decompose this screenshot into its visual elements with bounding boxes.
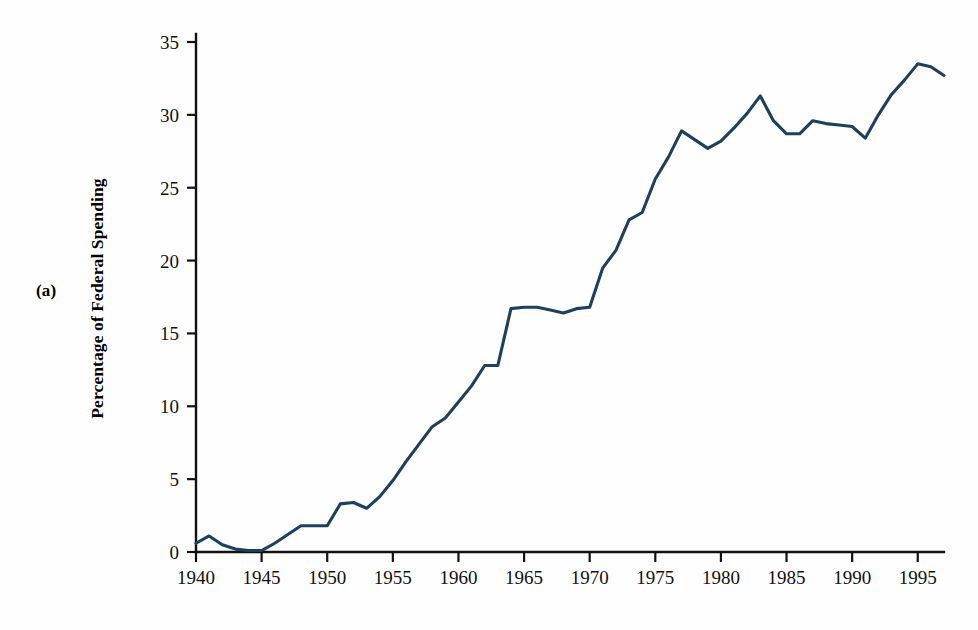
y-tick-label: 10 (160, 396, 179, 417)
y-axis-ticks: 05101520253035 (160, 32, 196, 563)
x-tick-label: 1990 (833, 567, 871, 588)
x-tick-label: 1975 (636, 567, 674, 588)
figure-panel-a: (a) Percentage of Federal Spending 05101… (0, 0, 978, 630)
x-tick-label: 1945 (243, 567, 281, 588)
y-tick-label: 25 (160, 178, 179, 199)
y-tick-label: 30 (160, 105, 179, 126)
y-tick-label: 35 (160, 32, 179, 53)
x-tick-label: 1955 (374, 567, 412, 588)
x-tick-label: 1950 (308, 567, 346, 588)
x-tick-label: 1995 (899, 567, 937, 588)
x-tick-label: 1965 (505, 567, 543, 588)
y-tick-label: 5 (170, 469, 180, 490)
series-line-federal-spending (196, 64, 944, 551)
y-tick-label: 20 (160, 251, 179, 272)
line-chart-plot: 05101520253035 1940194519501955196019651… (0, 0, 978, 630)
x-axis-ticks: 1940194519501955196019651970197519801985… (177, 552, 937, 588)
x-tick-label: 1980 (702, 567, 740, 588)
x-tick-label: 1940 (177, 567, 215, 588)
y-tick-label: 15 (160, 323, 179, 344)
x-tick-label: 1960 (439, 567, 477, 588)
y-tick-label: 0 (170, 542, 180, 563)
x-tick-label: 1970 (571, 567, 609, 588)
x-tick-label: 1985 (768, 567, 806, 588)
